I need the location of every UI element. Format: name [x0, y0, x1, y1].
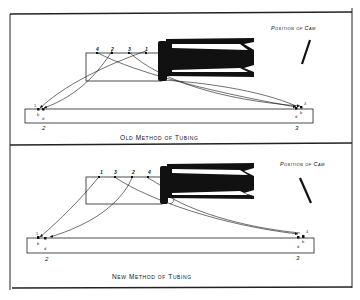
lower-label: d: [42, 116, 44, 121]
tube-label: 4: [95, 46, 99, 52]
lower-tube-bar: [25, 109, 313, 123]
lower-label: b: [300, 110, 303, 115]
cam-position-icon: [300, 178, 311, 203]
tube-label: 2: [131, 169, 135, 175]
lower-label: b: [302, 239, 305, 244]
tube-label: 4: [147, 169, 151, 175]
lower-label: 2: [44, 256, 49, 262]
lower-label: 3: [296, 255, 300, 261]
lower-label: d: [44, 246, 46, 251]
chuck-icon: [158, 38, 254, 81]
upper-tube-bar: [86, 53, 162, 81]
lower-label: 2: [41, 125, 46, 131]
panel-new-method: 1 3 2 4 1 b d 2 4 d b 3 Position of Cam: [27, 161, 325, 280]
lower-label: 1: [34, 103, 37, 108]
lower-label: 4: [306, 229, 309, 234]
upper-tube-bar: [86, 177, 162, 204]
lower-label: d: [297, 244, 299, 249]
tubing-diagram: 4 2 3 1 1 b d 2 4 d b 3: [0, 0, 360, 300]
chuck-icon: [160, 163, 254, 204]
panel-caption: New Method of Tubing: [112, 273, 192, 280]
lower-label: b: [37, 112, 40, 117]
lower-label: 1: [36, 231, 39, 236]
lower-label: b: [37, 241, 40, 246]
panel-caption: Old Method of Tubing: [120, 134, 198, 141]
tube-label: 3: [128, 46, 131, 52]
lower-label: 3: [295, 125, 299, 131]
lower-tube-bar: [27, 238, 314, 253]
lower-label: d: [295, 114, 297, 119]
lower-label: 4: [304, 101, 307, 106]
cam-position-icon: [302, 40, 310, 64]
panel-old-method: 4 2 3 1 1 b d 2 4 d b 3: [25, 25, 316, 141]
cam-position-label: Position of Cam: [271, 25, 316, 31]
tube-label: 3: [114, 169, 117, 175]
cam-position-label: Position of Cam: [280, 161, 325, 167]
tube-label: 1: [100, 169, 103, 175]
